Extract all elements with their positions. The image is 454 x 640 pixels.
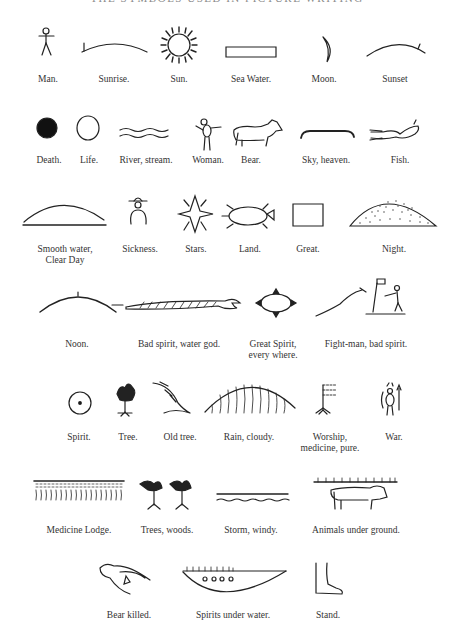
label-bear-killed: Bear killed. (107, 610, 151, 621)
turtle-icon (222, 204, 274, 228)
lodge-icon (34, 481, 124, 500)
label-river: River, stream. (119, 155, 172, 166)
label-smooth-water: Smooth water, Clear Day (37, 244, 92, 266)
label-storm: Storm, windy. (224, 525, 277, 536)
label-stand: Stand. (316, 610, 340, 621)
arc-right-tick-icon (367, 44, 425, 56)
flag-pole-icon (316, 385, 337, 414)
warrior-icon (382, 383, 402, 415)
rectangle-icon (226, 47, 276, 57)
serpent-icon (112, 299, 240, 309)
label-stars: Stars. (185, 244, 206, 255)
label-sunrise: Sunrise. (99, 74, 130, 85)
label-moon: Moon. (311, 74, 336, 85)
wavy-lines-icon (120, 129, 168, 138)
dotted-dome-icon (350, 200, 436, 226)
label-trees: Trees, woods. (141, 525, 194, 536)
label-night: Night. (382, 244, 406, 255)
label-great: Great. (296, 244, 319, 255)
label-fight-man: Fight-man, bad spirit. (325, 339, 407, 350)
label-rain: Rain, cloudy. (224, 432, 274, 443)
label-life: Life. (80, 155, 98, 166)
tree-icon (117, 384, 135, 416)
label-bear: Bear. (241, 155, 261, 166)
fish-icon (370, 120, 419, 140)
two-trees-icon (140, 481, 191, 509)
animal-under-line-icon (314, 478, 397, 509)
label-spirits-under: Spirits under water. (196, 610, 270, 621)
fight-scene-icon (316, 279, 405, 316)
stick-figure-icon (39, 28, 54, 55)
bear-icon (234, 120, 282, 146)
woman-figure-icon (196, 119, 221, 150)
label-sky: Sky, heaven. (302, 155, 350, 166)
label-fish: Fish. (391, 155, 410, 166)
foot-icon (316, 563, 342, 594)
label-line-1: Worship, (301, 432, 360, 443)
label-line-2: every where. (248, 350, 297, 361)
label-spirit: Spirit. (67, 432, 91, 443)
line-wave-icon (217, 494, 289, 501)
old-tree-icon (153, 382, 190, 413)
hat-figure-icon (129, 198, 147, 224)
label-noon: Noon. (65, 339, 89, 350)
label-tree: Tree. (118, 432, 137, 443)
label-sunset: Sunset (382, 74, 407, 85)
label-sun: Sun. (170, 74, 187, 85)
label-man: Man. (38, 74, 58, 85)
label-line-1: Great Spirit, (248, 339, 297, 350)
sun-rays-icon (161, 27, 197, 63)
dome-line-icon (23, 205, 106, 225)
empty-circle-icon (77, 116, 99, 140)
filled-circle-icon (37, 118, 57, 138)
dot-circle-icon (69, 392, 91, 414)
label-animals-under: Animals under ground. (312, 525, 400, 536)
square-icon (293, 204, 323, 226)
dead-bear-icon (100, 564, 150, 594)
label-worship: Worship, medicine, pure. (301, 432, 360, 454)
star-icon (179, 196, 213, 232)
label-line-2: Clear Day (37, 255, 92, 266)
sky-arc-icon (301, 131, 354, 138)
arc-top-tick-icon (40, 292, 116, 312)
label-war: War. (385, 432, 402, 443)
label-sea-water: Sea Water. (231, 74, 271, 85)
label-death: Death. (36, 155, 61, 166)
rain-dome-icon (205, 385, 295, 413)
label-bad-spirit: Bad spirit, water god. (138, 339, 220, 350)
label-medicine-lodge: Medicine Lodge. (47, 525, 112, 536)
label-line-2: medicine, pure. (301, 443, 360, 454)
oval-triangles-icon (256, 289, 296, 317)
arc-left-tick-icon (82, 43, 147, 52)
label-great-spirit: Great Spirit, every where. (248, 339, 297, 361)
crescent-icon (323, 37, 330, 62)
label-old-tree: Old tree. (163, 432, 196, 443)
label-land: Land. (239, 244, 261, 255)
label-woman: Woman. (192, 155, 224, 166)
label-sickness: Sickness. (122, 244, 158, 255)
pictograph-canvas (0, 0, 454, 640)
bowl-circles-icon (183, 567, 286, 592)
label-line-1: Smooth water, (37, 244, 92, 255)
